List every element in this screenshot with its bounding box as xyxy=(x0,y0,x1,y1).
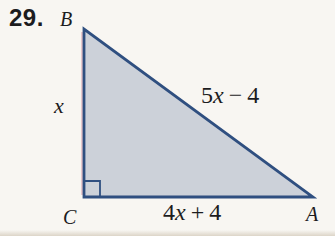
hypotenuse-variable: x xyxy=(213,82,224,108)
bottom-constant: 4 xyxy=(209,199,221,225)
bottom-coefficient: 4 xyxy=(163,199,175,225)
bottom-variable: x xyxy=(175,199,186,225)
vertex-label-a: A xyxy=(306,204,318,224)
side-label-hypotenuse: 5x−4 xyxy=(201,83,259,107)
triangle-shape xyxy=(84,29,313,197)
exercise-figure: 29. B C A x 5x−4 4x+4 xyxy=(0,0,335,236)
vertex-label-c: C xyxy=(63,207,76,227)
side-label-left: x xyxy=(54,95,64,117)
side-label-bottom: 4x+4 xyxy=(163,200,221,224)
bottom-operator: + xyxy=(191,199,205,225)
hypotenuse-operator: − xyxy=(229,82,243,108)
hypotenuse-constant: 4 xyxy=(247,82,259,108)
hypotenuse-coefficient: 5 xyxy=(201,82,213,108)
scan-shadow-edge xyxy=(0,230,335,236)
vertex-label-b: B xyxy=(60,9,72,29)
